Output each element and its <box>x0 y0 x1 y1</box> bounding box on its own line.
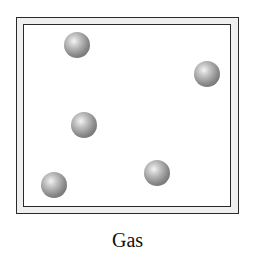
gas-particle-icon <box>71 112 97 138</box>
gas-particle-icon <box>144 160 170 186</box>
state-label: Gas <box>0 229 253 252</box>
gas-particle-icon <box>194 61 220 87</box>
gas-particle-icon <box>64 32 90 58</box>
gas-particle-icon <box>41 172 67 198</box>
